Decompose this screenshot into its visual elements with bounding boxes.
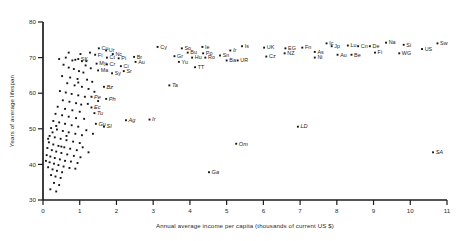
data-point	[77, 58, 79, 60]
data-point	[62, 99, 64, 101]
data-point-label: SK	[81, 56, 89, 62]
y-axis-tick-label: 80	[29, 18, 36, 25]
data-point	[70, 161, 72, 163]
data-point	[52, 144, 54, 146]
data-point	[57, 145, 59, 147]
x-axis-tick-label: 4	[188, 207, 192, 214]
data-point	[123, 70, 125, 72]
data-point	[77, 126, 79, 128]
data-point	[64, 160, 66, 162]
data-point-label: De	[372, 43, 379, 49]
y-axis-title: Years of average lifespan	[8, 75, 15, 147]
data-point	[98, 47, 100, 49]
data-point	[125, 119, 127, 121]
data-point	[90, 67, 92, 69]
data-point	[235, 143, 237, 145]
data-point-label: Fn	[305, 44, 312, 50]
data-point	[149, 119, 151, 121]
data-point	[81, 134, 83, 136]
data-point	[60, 138, 62, 140]
data-point	[174, 55, 176, 57]
data-point-label: Cy	[160, 44, 167, 50]
data-point	[85, 129, 87, 131]
data-point-label: LD	[300, 123, 307, 129]
data-point	[105, 98, 107, 100]
data-point	[68, 131, 70, 133]
data-point-label: Ph	[109, 96, 116, 102]
data-point-label: SI	[107, 123, 113, 129]
data-point	[71, 93, 73, 95]
data-point	[118, 57, 120, 59]
data-point	[52, 168, 54, 170]
data-point	[68, 101, 70, 103]
data-point-label: Cu	[101, 45, 108, 51]
data-point-label: My	[99, 60, 107, 66]
data-point	[106, 57, 108, 59]
data-point	[326, 42, 328, 44]
data-point	[45, 160, 47, 162]
data-point	[76, 149, 78, 151]
data-point	[314, 51, 316, 53]
data-point	[46, 154, 48, 156]
data-point	[351, 54, 353, 56]
data-point-label: Ro	[208, 54, 215, 60]
data-point	[49, 188, 51, 190]
data-point	[55, 113, 57, 115]
data-point	[56, 170, 58, 172]
data-point	[374, 52, 376, 54]
x-axis-title: Annual average income per capita (thousa…	[156, 222, 334, 229]
data-point-label: Sw	[440, 40, 448, 46]
data-point	[97, 69, 99, 71]
data-point	[69, 77, 71, 79]
data-point-label: Yu	[181, 59, 188, 65]
data-point	[77, 94, 79, 96]
data-point	[75, 117, 77, 119]
data-point	[95, 123, 97, 125]
data-point	[63, 166, 65, 168]
x-axis-tick-label: 2	[115, 207, 119, 214]
data-point	[263, 47, 265, 49]
data-point-label: Lu	[350, 42, 356, 48]
x-axis-tick-label: 6	[262, 207, 266, 214]
data-point	[178, 61, 180, 63]
data-point	[65, 92, 67, 94]
data-point-label: Hu	[195, 54, 202, 60]
data-point	[79, 111, 81, 113]
data-point	[71, 59, 73, 61]
data-point	[74, 84, 76, 86]
data-point	[55, 176, 57, 178]
data-point-label: Ir	[233, 47, 238, 53]
data-point-labels-layer: CuUrNcFiCtPiSKBrAuMyCrCiMaSySrBzPePhEcTu…	[81, 39, 448, 175]
data-point-label: Fi	[378, 49, 383, 55]
data-point	[68, 67, 70, 69]
data-point-label: UR	[240, 57, 248, 63]
x-axis: 01234567891011	[41, 200, 450, 214]
data-point	[63, 146, 65, 148]
data-point	[92, 133, 94, 135]
data-point	[84, 96, 86, 98]
data-point-label: Ta	[172, 82, 178, 88]
data-point	[51, 149, 53, 151]
data-point	[60, 177, 62, 179]
data-point	[50, 174, 52, 176]
data-point	[93, 112, 95, 114]
y-axis-tick-label: 70	[29, 54, 36, 61]
data-point	[93, 91, 95, 93]
data-point	[59, 90, 61, 92]
data-point-label: Gu	[98, 121, 105, 127]
data-point	[103, 86, 105, 88]
data-point	[65, 57, 67, 59]
data-point-label: UK	[267, 44, 275, 50]
data-point	[241, 45, 243, 47]
data-point	[194, 66, 196, 68]
data-point	[337, 54, 339, 56]
data-point	[202, 52, 204, 54]
data-point-label: SA	[436, 149, 444, 155]
data-point	[357, 45, 359, 47]
data-point	[54, 136, 56, 138]
data-point	[135, 61, 137, 63]
data-point	[54, 157, 56, 159]
data-point	[77, 162, 79, 164]
data-point-label: Ie	[205, 44, 210, 50]
data-point	[48, 141, 50, 143]
